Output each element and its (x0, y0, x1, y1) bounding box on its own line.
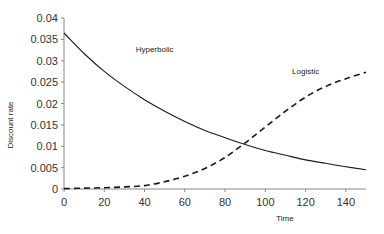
discount-rate-chart: 00.0050.010.0150.020.0250.030.0350.04 02… (0, 0, 384, 234)
y-tick-label: 0.03 (37, 55, 58, 67)
x-tick-label: 140 (337, 196, 355, 208)
plot-area (64, 33, 366, 189)
x-tick-label: 60 (179, 196, 191, 208)
y-axis: 00.0050.010.0150.020.0250.030.0350.04 (30, 12, 64, 195)
x-tick-label: 120 (296, 196, 314, 208)
y-tick-label: 0.01 (37, 140, 58, 152)
x-tick-label: 100 (256, 196, 274, 208)
y-tick-label: 0.015 (30, 119, 58, 131)
y-tick-label: 0.025 (30, 76, 58, 88)
hyperbolic-label: Hyperbolic (136, 45, 174, 54)
logistic-curve (64, 72, 366, 188)
x-axis-title: Time (276, 214, 294, 223)
x-axis: 020406080100120140 (61, 189, 366, 208)
y-tick-label: 0.02 (37, 98, 58, 110)
curve-annotations: HyperbolicLogistic (136, 45, 319, 75)
y-tick-label: 0.035 (30, 33, 58, 45)
y-tick-label: 0.04 (37, 12, 58, 24)
x-tick-label: 0 (61, 196, 67, 208)
x-tick-label: 40 (138, 196, 150, 208)
x-tick-label: 20 (98, 196, 110, 208)
y-axis-title: Discount rate (6, 101, 15, 149)
y-tick-label: 0.005 (30, 162, 58, 174)
x-tick-label: 80 (219, 196, 231, 208)
y-tick-label: 0 (52, 183, 58, 195)
hyperbolic-curve (64, 33, 366, 170)
logistic-label: Logistic (292, 67, 319, 76)
